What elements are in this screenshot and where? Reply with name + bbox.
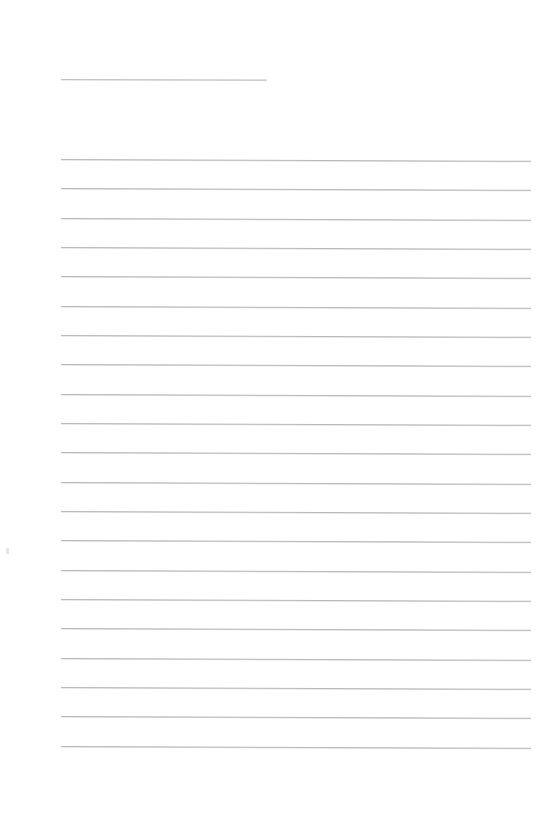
body-rule-line bbox=[61, 540, 531, 543]
body-rule-line bbox=[61, 247, 531, 250]
body-rule-line bbox=[61, 276, 531, 279]
body-rule-line bbox=[61, 423, 531, 426]
body-rule-line bbox=[61, 658, 531, 661]
body-rule-line bbox=[61, 394, 531, 397]
body-rule-line bbox=[61, 687, 531, 690]
body-rule-line bbox=[61, 746, 531, 749]
body-rule-line bbox=[61, 570, 531, 573]
body-rule-line bbox=[61, 188, 531, 191]
body-rule-line bbox=[61, 452, 531, 455]
body-rule-line bbox=[61, 511, 531, 514]
body-rule-line bbox=[61, 159, 531, 162]
body-rule-line bbox=[61, 218, 531, 221]
body-rule-line bbox=[61, 628, 531, 631]
scanned-page bbox=[0, 0, 546, 817]
body-rule-line bbox=[61, 599, 531, 602]
body-rule-line bbox=[61, 482, 531, 485]
body-rule-line bbox=[61, 335, 531, 338]
body-rule-line bbox=[61, 364, 531, 367]
body-rule-line bbox=[61, 716, 531, 719]
scan-speck bbox=[6, 548, 9, 554]
title-rule bbox=[61, 79, 267, 80]
body-rule-line bbox=[61, 306, 531, 309]
